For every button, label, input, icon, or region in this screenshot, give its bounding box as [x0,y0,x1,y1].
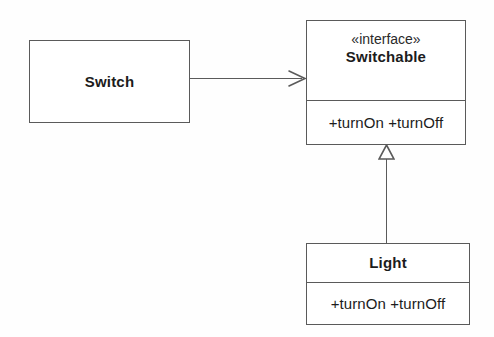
switchable-stereotype: «interface» [351,31,420,48]
light-name-compartment: Light [307,244,469,282]
light-class-name: Light [369,254,407,271]
switchable-class-name: Switchable [346,48,426,65]
switchable-operations: +turnOn +turnOff [329,114,444,131]
realization-line-light-to-switchable [386,159,387,243]
switchable-operations-compartment: +turnOn +turnOff [307,100,465,144]
switchable-name-compartment: «interface» Switchable [307,21,465,100]
hollow-triangle-arrowhead-icon [378,144,395,160]
uml-class-diagram: Switch «interface» Switchable +turnOn +t… [0,0,494,337]
light-operations-compartment: +turnOn +turnOff [307,282,469,324]
association-line-switch-to-switchable [190,78,302,79]
open-arrowhead-icon [288,69,307,88]
class-box-light[interactable]: Light +turnOn +turnOff [306,243,470,325]
class-box-switchable[interactable]: «interface» Switchable +turnOn +turnOff [306,20,466,145]
class-box-switch[interactable]: Switch [29,40,190,123]
switch-name-compartment: Switch [30,41,189,122]
light-operations: +turnOn +turnOff [331,295,446,312]
switch-class-name: Switch [85,73,135,90]
